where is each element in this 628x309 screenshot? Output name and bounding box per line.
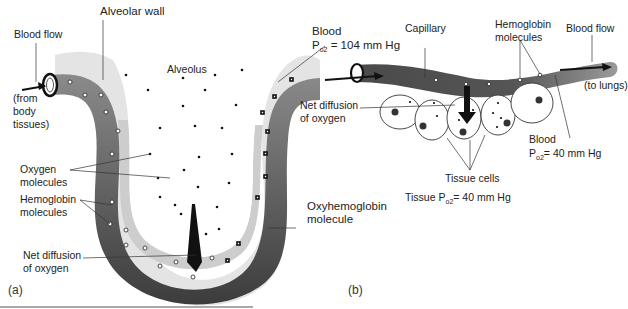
label-blood-a: Blood (312, 24, 341, 38)
label-blood-flow-in: Blood flow (14, 28, 62, 41)
label-oxygen-molecules-2: molecules (20, 176, 67, 189)
label-oxyhemoglobin-1: Oxyhemoglobin (307, 199, 387, 213)
label-oxyhemoglobin-2: molecule (307, 212, 353, 226)
panel-tag-b: (b) (348, 283, 363, 297)
label-blood-b: Blood (529, 133, 556, 146)
label-from-body-2: body (13, 105, 36, 118)
label-net-diffusion-b-2: of oxygen (300, 112, 346, 125)
panel-tag-a: (a) (8, 283, 23, 297)
systemic-capillary (355, 62, 618, 97)
label-hemoglobin-a-2: molecules (20, 206, 67, 219)
label-blood-po2-a: Po2 = 104 mm Hg (312, 38, 400, 57)
label-alveolus: Alveolus (167, 63, 207, 76)
label-net-diffusion-b-1: Net diffusion (300, 99, 358, 112)
label-tissue-cells: Tissue cells (445, 172, 499, 185)
label-from-body-1: (from (13, 92, 38, 105)
label-hemoglobin-b-1: Hemoglobin (495, 18, 551, 31)
label-capillary: Capillary (405, 22, 446, 35)
label-blood-flow-out: Blood flow (566, 22, 614, 35)
capillary-opening-ring (351, 64, 363, 82)
label-to-lungs: (to lungs) (584, 79, 628, 92)
label-hemoglobin-a-1: Hemoglobin (20, 193, 76, 206)
label-alveolar-wall: Alveolar wall (100, 4, 165, 18)
label-net-diffusion-a-1: Net diffusion (23, 249, 81, 262)
label-from-body-3: tissues) (13, 118, 49, 131)
label-hemoglobin-b-2: molecules (495, 31, 542, 44)
label-oxygen-molecules-1: Oxygen (20, 163, 56, 176)
label-net-diffusion-a-2: of oxygen (23, 262, 69, 275)
label-tissue-po2: Tissue Po2= 40 mm Hg (405, 191, 511, 208)
label-blood-po2-b: Po2= 40 mm Hg (529, 147, 601, 164)
